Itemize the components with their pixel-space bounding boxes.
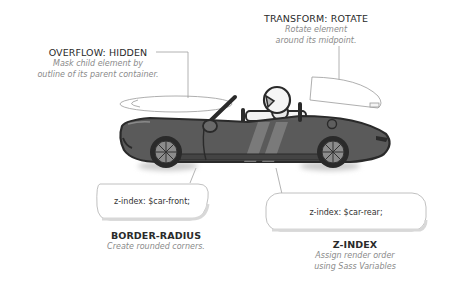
- annotation-desc: around its midpoint.: [256, 35, 376, 46]
- wheel-front-icon: [150, 136, 182, 168]
- wheel-rear-icon: [317, 136, 349, 168]
- annotation-z-index: Z-INDEX Assign render order using Sass V…: [290, 239, 420, 272]
- rotated-hood-panel: [310, 77, 381, 108]
- annotation-border-radius: BORDER-RADIUS Create rounded corners.: [96, 230, 216, 252]
- pill-car-rear: z-index: $car-rear;: [266, 193, 426, 231]
- annotation-desc: Assign render order: [290, 250, 420, 261]
- overflow-ellipse: [120, 96, 232, 112]
- annotation-desc: outline of its parent container.: [28, 69, 168, 80]
- annotation-desc: using Sass Variables: [290, 261, 420, 272]
- annotation-transform-rotate: TRANSFORM: ROTATE Rotate element around …: [256, 13, 376, 46]
- annotation-overflow-hidden: OVERFLOW: HIDDEN Mask child element by o…: [28, 47, 168, 80]
- annotation-title: BORDER-RADIUS: [96, 230, 216, 241]
- annotation-title: OVERFLOW: HIDDEN: [28, 47, 168, 58]
- annotation-title: TRANSFORM: ROTATE: [256, 13, 376, 24]
- annotation-desc: Mask child element by: [28, 58, 168, 69]
- annotation-title: Z-INDEX: [290, 239, 420, 250]
- annotation-desc: Create rounded corners.: [96, 241, 216, 252]
- pill-car-front: z-index: $car-front;: [96, 182, 208, 220]
- annotation-desc: Rotate element: [256, 24, 376, 35]
